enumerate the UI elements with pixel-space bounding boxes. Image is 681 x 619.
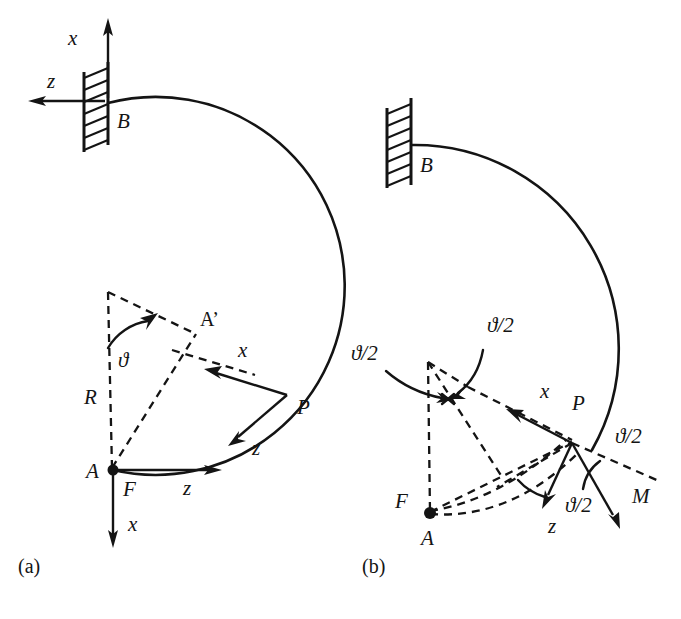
local-z-axis-label-a: z bbox=[251, 436, 260, 460]
radius-line-b bbox=[428, 362, 430, 512]
support-label-b-a: B bbox=[117, 109, 130, 133]
radius-line-a bbox=[108, 292, 112, 468]
fixed-support-hatching-a bbox=[84, 62, 108, 152]
end-x-axis-label-a: x bbox=[127, 512, 138, 536]
panel-caption-b: (b) bbox=[362, 555, 385, 578]
force-label-f-a: F bbox=[122, 477, 136, 501]
end-z-axis-label-a: z bbox=[182, 476, 191, 500]
point-p-label-a: P bbox=[296, 395, 310, 419]
half-angle-m-label-b: ϑ/2 bbox=[615, 424, 642, 448]
half-angle-z-label-b: ϑ/2 bbox=[565, 493, 592, 517]
half-angle-left-label-b: ϑ/2 bbox=[351, 341, 378, 365]
moment-label-b: M bbox=[631, 484, 651, 508]
angle-arrow-left-b bbox=[386, 371, 442, 398]
global-x-axis-arrow-a bbox=[103, 18, 113, 98]
support-label-b-b: B bbox=[420, 153, 433, 177]
radius-label-a: R bbox=[83, 385, 97, 409]
global-x-axis-label-a: x bbox=[67, 26, 78, 50]
local-x-axis-arrow-a bbox=[204, 366, 287, 395]
panel-caption-a: (a) bbox=[18, 555, 40, 578]
angle-label-theta-a: ϑ bbox=[118, 348, 130, 372]
force-label-f-b: F bbox=[394, 489, 408, 513]
fixed-support-hatching-b bbox=[387, 98, 411, 188]
local-x-axis-label-b: x bbox=[539, 379, 550, 403]
angle-arrow-top-b bbox=[458, 350, 483, 393]
local-x-axis-label-a: x bbox=[237, 338, 248, 362]
force-f-arrow-a bbox=[108, 470, 118, 548]
angle-arc-theta-a bbox=[108, 321, 148, 348]
node-dot-b bbox=[424, 507, 436, 519]
panel-b: B ϑ/2 ϑ/2 bbox=[351, 98, 659, 578]
fan-line-mid-b bbox=[428, 362, 502, 477]
free-end-label-a: A bbox=[84, 459, 99, 483]
curved-chord-lower-b bbox=[430, 453, 578, 514]
local-z-axis-label-b: z bbox=[547, 514, 556, 538]
global-z-axis-label-a: z bbox=[46, 69, 55, 93]
panel-a: x z B ϑ R A’ x bbox=[18, 18, 345, 578]
free-end-label-b: A bbox=[419, 526, 434, 550]
half-angle-top-label-b: ϑ/2 bbox=[487, 313, 514, 337]
point-p-label-b: P bbox=[571, 391, 585, 415]
displaced-point-label-a: A’ bbox=[200, 308, 219, 330]
curved-beam-figure: x z B ϑ R A’ x bbox=[0, 0, 681, 619]
centre-to-aprime-line-a bbox=[108, 292, 196, 334]
local-x-axis-arrow-b bbox=[506, 409, 572, 443]
figure-root: x z B ϑ R A’ x bbox=[0, 0, 681, 619]
moment-reference-line-b bbox=[572, 443, 659, 481]
fan-line-upper-b bbox=[428, 362, 468, 387]
